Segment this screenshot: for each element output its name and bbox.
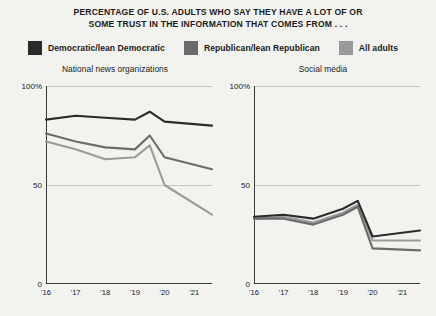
series-line: [254, 207, 420, 251]
x-axis-tick-label: '21: [189, 288, 199, 297]
y-axis-tick-label: 50: [33, 181, 42, 190]
y-axis-tick-label: 100%: [230, 82, 250, 91]
x-axis-ticks: '16'17'18'19'20'21: [46, 284, 212, 308]
series-layer: [46, 86, 212, 284]
legend-item-label: Democratic/lean Democratic: [48, 43, 165, 53]
x-axis-tick-label: '21: [397, 288, 407, 297]
panel-title: Social media: [222, 64, 424, 74]
x-axis-tick-label: '18: [308, 288, 318, 297]
x-axis-tick-label: '20: [160, 288, 170, 297]
legend-item-label: All adults: [359, 43, 398, 53]
x-axis-tick-label: '18: [100, 288, 110, 297]
title-line-2: SOME TRUST IN THE INFORMATION THAT COMES…: [0, 19, 436, 31]
x-axis-tick-label: '19: [338, 288, 348, 297]
chart-page: PERCENTAGE OF U.S. ADULTS WHO SAY THEY H…: [0, 0, 436, 316]
x-axis-ticks: '16'17'18'19'20'21: [254, 284, 420, 308]
x-axis-tick-label: '17: [71, 288, 81, 297]
chart-panel-social-media: Social media 100%500'16'17'18'19'20'21: [222, 64, 424, 308]
plot-area: 100%500'16'17'18'19'20'21: [46, 86, 212, 284]
series-layer: [254, 86, 420, 284]
y-axis-tick-label: 100%: [22, 82, 42, 91]
chart-legend: Democratic/lean DemocraticRepublican/lea…: [28, 40, 424, 56]
legend-item: All adults: [339, 41, 398, 55]
legend-item: Republican/lean Republican: [184, 41, 320, 55]
chart-panel-national-news: National news organizations 100%500'16'1…: [14, 64, 216, 308]
series-line: [46, 112, 212, 126]
title-line-1: PERCENTAGE OF U.S. ADULTS WHO SAY THEY H…: [73, 7, 362, 17]
x-axis-tick-label: '19: [130, 288, 140, 297]
legend-swatch-republican: [184, 41, 198, 55]
series-line: [46, 141, 212, 214]
panel-title: National news organizations: [14, 64, 216, 74]
plot-area: 100%500'16'17'18'19'20'21: [254, 86, 420, 284]
x-axis-tick-label: '16: [41, 288, 51, 297]
x-axis-tick-label: '17: [279, 288, 289, 297]
x-axis-tick-label: '20: [368, 288, 378, 297]
legend-swatch-all-adults: [339, 41, 353, 55]
legend-item-label: Republican/lean Republican: [204, 43, 320, 53]
legend-item: Democratic/lean Democratic: [28, 41, 165, 55]
page-title: PERCENTAGE OF U.S. ADULTS WHO SAY THEY H…: [0, 7, 436, 30]
y-axis-tick-label: 50: [241, 181, 250, 190]
series-line: [46, 134, 212, 170]
legend-swatch-democratic: [28, 41, 42, 55]
x-axis-tick-label: '16: [249, 288, 259, 297]
